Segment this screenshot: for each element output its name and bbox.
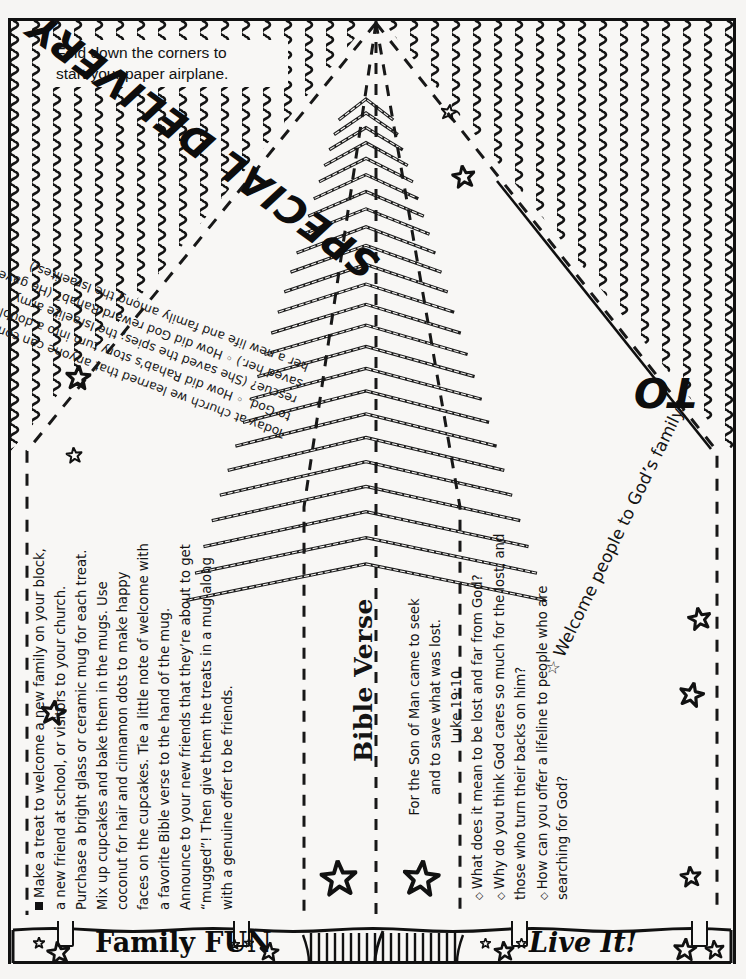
paper-clip-icon bbox=[57, 921, 74, 947]
tail-fin-hatching bbox=[303, 931, 463, 963]
paper-clip-icon bbox=[511, 921, 528, 947]
verse-reference: Luke 19:10 bbox=[446, 542, 467, 872]
question-text: What does it mean to be lost and far fro… bbox=[470, 574, 485, 889]
verse-line-1: For the Son of Man came to seek bbox=[404, 542, 425, 872]
list-item: ◇What does it mean to be lost and far fr… bbox=[468, 528, 489, 900]
family-fun-body: Make a treat to welcome a new family on … bbox=[30, 538, 239, 910]
bullet-square-icon bbox=[35, 902, 43, 910]
activity-page: Fold down the corners to start your pape… bbox=[0, 0, 746, 979]
bible-verse-text: For the Son of Man came to seek and to s… bbox=[404, 542, 467, 872]
question-list: ◇What does it mean to be lost and far fr… bbox=[468, 528, 574, 900]
diamond-bullet-icon: ◇ bbox=[473, 892, 484, 900]
list-item: ◇Why do you think God cares so much for … bbox=[490, 528, 532, 900]
list-item: ◇How can you offer a lifeline to people … bbox=[533, 528, 575, 900]
diamond-bullet-icon: ◇ bbox=[538, 892, 549, 900]
live-it-questions: ◇What does it mean to be lost and far fr… bbox=[468, 528, 575, 900]
family-fun-label: Family FUN bbox=[95, 927, 272, 958]
verse-line-2: and to save what was lost. bbox=[425, 542, 446, 872]
bible-verse-heading: Bible Verse bbox=[349, 598, 378, 762]
diamond-bullet-icon: ◇ bbox=[495, 892, 506, 900]
live-it-label: Live It! bbox=[529, 927, 637, 958]
family-fun-body-text: Make a treat to welcome a new family on … bbox=[32, 543, 235, 910]
paper-clip-icon bbox=[691, 921, 708, 947]
bottom-strip: Family FUN Live It! bbox=[11, 921, 733, 964]
question-text: Why do you think God cares so much for t… bbox=[492, 534, 528, 900]
